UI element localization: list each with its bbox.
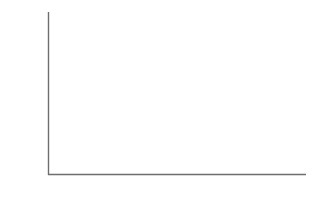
axis-lines [48, 12, 306, 175]
chart-container [0, 0, 325, 217]
y-axis-title [0, 0, 22, 180]
plot-svg [48, 12, 306, 175]
plot-area [48, 12, 306, 175]
y-axis-tick-labels [22, 0, 44, 217]
x-axis-tick-labels [48, 178, 306, 192]
